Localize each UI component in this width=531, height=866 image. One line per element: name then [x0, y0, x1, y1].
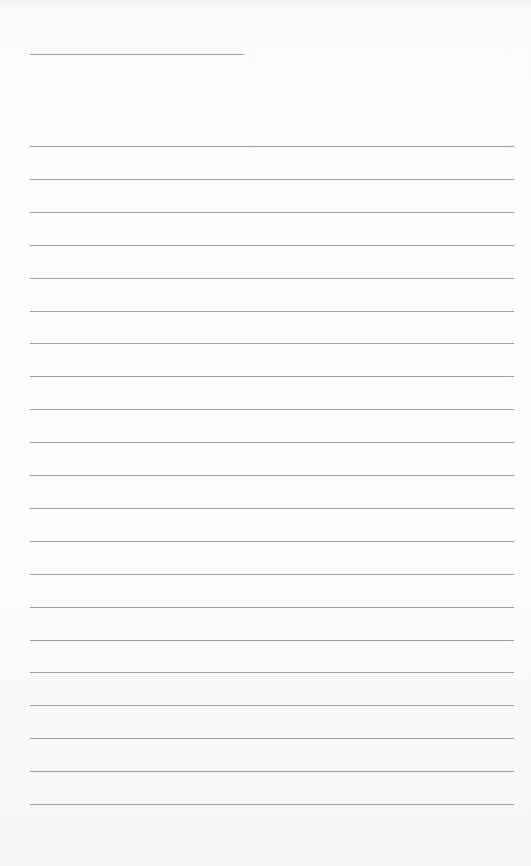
ruled-line	[30, 343, 514, 344]
ruled-line	[30, 245, 514, 246]
ruled-line	[30, 804, 514, 805]
ruled-line	[30, 179, 514, 180]
ruled-line	[30, 640, 514, 641]
ruled-line	[30, 541, 514, 542]
ruled-line	[30, 771, 514, 772]
ruled-line	[30, 574, 514, 575]
ruled-line	[30, 442, 514, 443]
ruled-line	[30, 672, 514, 673]
ruled-line	[30, 738, 514, 739]
ruled-line	[30, 607, 514, 608]
ruled-line	[30, 376, 514, 377]
ruled-line	[30, 705, 514, 706]
ruled-line	[30, 409, 514, 410]
ruled-line	[30, 146, 514, 147]
ruled-line	[30, 475, 514, 476]
ruled-lines	[0, 0, 531, 866]
ruled-line	[30, 212, 514, 213]
lined-paper	[0, 0, 531, 866]
ruled-line	[30, 508, 514, 509]
ruled-line	[30, 278, 514, 279]
ruled-line	[30, 311, 514, 312]
